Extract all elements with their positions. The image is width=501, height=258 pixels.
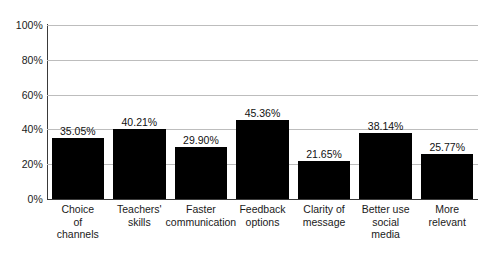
bar[interactable]: [421, 154, 473, 199]
x-axis-category-labels: ChoiceofchannelsTeachers'skillsFastercom…: [47, 203, 478, 258]
bar[interactable]: [236, 120, 288, 199]
bar-value-label: 38.14%: [347, 121, 423, 132]
bar-series: 35.05%40.21%29.90%45.36%21.65%38.14%25.7…: [47, 25, 478, 199]
y-tick-label-0: 0%: [3, 194, 43, 205]
bar[interactable]: [113, 129, 165, 199]
x-axis-baseline: [47, 199, 478, 200]
category-label-line: channels: [38, 228, 117, 241]
bar-slot: 25.77%: [416, 25, 478, 199]
y-axis-tick-labels: 100% 80% 60% 40% 20% 0%: [0, 0, 43, 258]
bar[interactable]: [359, 133, 411, 199]
bar-slot: 29.90%: [170, 25, 232, 199]
category-label-line: media: [346, 228, 425, 241]
bar[interactable]: [175, 147, 227, 199]
y-tick-label-100: 100%: [3, 20, 43, 31]
bar-value-label: 21.65%: [286, 149, 362, 160]
bar-slot: 35.05%: [47, 25, 109, 199]
bar-slot: 45.36%: [232, 25, 294, 199]
category-label-line: relevant: [408, 216, 487, 229]
category-label-line: More: [408, 203, 487, 216]
bar-value-label: 29.90%: [163, 135, 239, 146]
y-tick-label-20: 20%: [3, 159, 43, 170]
y-tick-label-40: 40%: [3, 124, 43, 135]
bar-value-label: 25.77%: [409, 142, 485, 153]
plot-area: 35.05%40.21%29.90%45.36%21.65%38.14%25.7…: [47, 25, 478, 199]
bar-value-label: 40.21%: [101, 117, 177, 128]
y-tick-label-80: 80%: [3, 55, 43, 66]
x-axis-category-label: Morerelevant: [408, 203, 487, 228]
bar[interactable]: [298, 161, 350, 199]
bar[interactable]: [52, 138, 104, 199]
bar-slot: 38.14%: [355, 25, 417, 199]
y-tick-label-60: 60%: [3, 90, 43, 101]
bar-value-label: 45.36%: [224, 108, 300, 119]
bar-slot: 21.65%: [293, 25, 355, 199]
bar-chart: 100% 80% 60% 40% 20% 0% 35.05%40.21%29.9…: [0, 0, 501, 258]
bar-slot: 40.21%: [109, 25, 171, 199]
